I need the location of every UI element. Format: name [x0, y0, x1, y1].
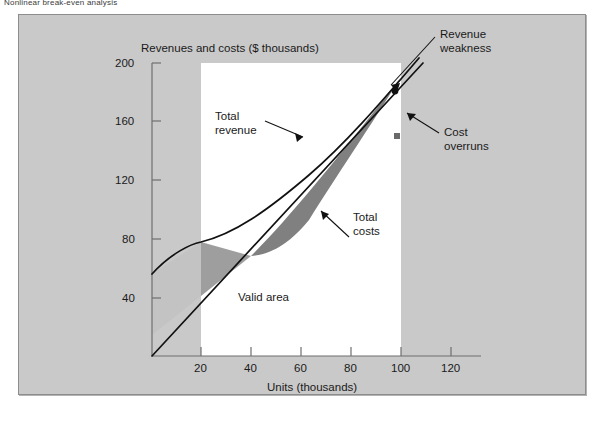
screenshot-root: Nonlinear break-even analysis — [0, 0, 604, 421]
y-tick-label-160: 160 — [115, 115, 134, 127]
annotation-total-costs-line2: costs — [353, 225, 380, 239]
x-axis-title: Units (thousands) — [267, 381, 357, 393]
annotation-total-revenue-line1: Total — [215, 110, 257, 124]
annotation-total-costs-line1: Total — [353, 211, 380, 225]
y-tick-label-40: 40 — [122, 292, 135, 304]
x-tick-label-40: 40 — [244, 362, 257, 374]
break-even-chart — [19, 15, 587, 396]
annotation-valid-area: Valid area — [238, 291, 289, 303]
annotation-cost-overruns-line2: overruns — [444, 140, 489, 154]
y-axis-title: Revenues and costs ($ thousands) — [141, 42, 319, 54]
annotation-total-costs: Total costs — [353, 211, 380, 238]
loss-region-outside — [152, 242, 201, 335]
x-tick-label-60: 60 — [294, 362, 307, 374]
revenue-weakness-leader — [391, 37, 435, 85]
y-tick-label-80: 80 — [122, 233, 135, 245]
annotation-revenue-weakness-line1: Revenue — [440, 28, 491, 42]
annotation-cost-overruns: Cost overruns — [444, 126, 489, 153]
y-tick-label-120: 120 — [115, 174, 134, 186]
chart-panel: Revenues and costs ($ thousands) 200 160… — [18, 14, 586, 395]
x-tick-label-20: 20 — [194, 362, 207, 374]
annotation-revenue-weakness-line2: weakness — [440, 42, 491, 56]
annotation-cost-overruns-line1: Cost — [444, 126, 489, 140]
annotation-revenue-weakness: Revenue weakness — [440, 28, 491, 55]
cost-overruns-arrowhead — [407, 113, 416, 121]
annotation-total-revenue-line2: revenue — [215, 124, 257, 138]
x-tick-label-80: 80 — [344, 362, 357, 374]
x-tick-label-100: 100 — [391, 362, 410, 374]
cost-overrun-marker — [394, 133, 400, 139]
annotation-total-revenue: Total revenue — [215, 110, 257, 137]
x-tick-label-120: 120 — [441, 362, 460, 374]
y-tick-label-200: 200 — [115, 57, 134, 69]
figure-caption: Nonlinear break-even analysis — [4, 0, 117, 7]
